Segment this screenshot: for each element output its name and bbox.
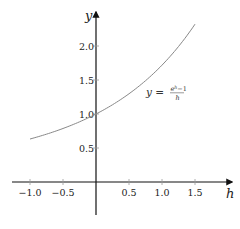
x-tick-label: −1.0 [18, 187, 41, 198]
formula-lhs: y = [145, 86, 164, 98]
formula-denominator: h [176, 94, 180, 102]
x-tick-label: −0.5 [51, 187, 74, 198]
chart: −1.0−0.50.51.01.50.51.01.52.0 y = eh−1 h… [0, 0, 240, 229]
formula-annotation: y = eh−1 h [145, 85, 187, 102]
x-tick-label: 0.5 [121, 187, 136, 198]
x-axis-label: h [226, 186, 234, 201]
ticks: −1.0−0.50.51.01.50.51.01.52.0 [18, 41, 202, 199]
x-tick-label: 1.5 [187, 187, 202, 198]
y-tick-label: 1.5 [79, 75, 94, 86]
y-tick-label: 2.0 [79, 41, 94, 52]
y-tick-label: 0.5 [79, 143, 94, 154]
y-tick-label: 1.0 [79, 109, 94, 120]
curve-series-line [30, 24, 195, 139]
x-tick-label: 1.0 [154, 187, 169, 198]
formula-numerator: eh−1 [171, 85, 187, 94]
axes [12, 12, 232, 215]
y-axis-label: y [84, 8, 93, 23]
